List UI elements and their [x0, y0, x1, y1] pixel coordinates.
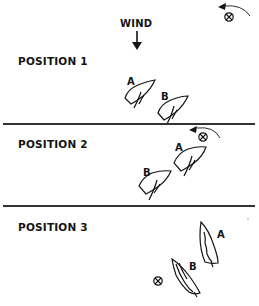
speck-dot: [247, 218, 249, 220]
position-3-boat-b-icon: [172, 259, 200, 297]
position-3-mark-icon: [154, 277, 162, 285]
position-3-boat-a-icon: [200, 222, 218, 267]
